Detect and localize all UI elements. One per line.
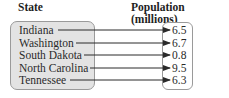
mapping-arrows	[0, 0, 229, 98]
